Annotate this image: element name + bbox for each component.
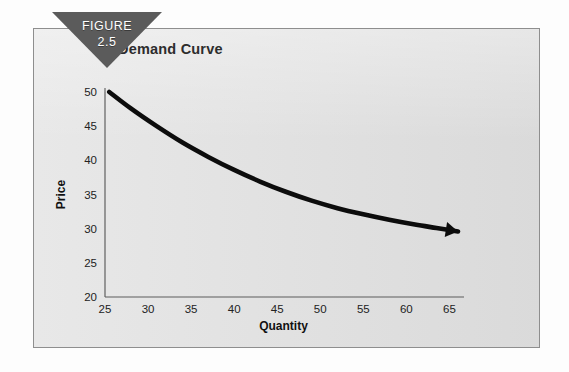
y-tick-label: 45 (84, 120, 97, 132)
figure-banner: FIGURE 2.5 (52, 12, 162, 68)
x-tick-label: 50 (314, 303, 327, 315)
y-tick-label: 20 (84, 291, 97, 303)
y-tick-label: 50 (84, 86, 97, 98)
plot-area: 20253035404550253035404550556065 Quantit… (33, 28, 540, 348)
x-tick-label: 45 (271, 303, 284, 315)
y-tick-label: 35 (84, 189, 97, 201)
banner-triangle-icon (52, 12, 162, 68)
demand-curve-plot: 20253035404550253035404550556065 Quantit… (33, 28, 540, 348)
y-tick-label: 25 (84, 257, 97, 269)
x-tick-label: 35 (185, 303, 198, 315)
x-tick-label: 60 (400, 303, 413, 315)
x-tick-label: 40 (228, 303, 241, 315)
y-tick-label: 40 (84, 154, 97, 166)
x-tick-label: 30 (142, 303, 155, 315)
x-tick-label: 55 (357, 303, 370, 315)
demand-curve-series (109, 92, 458, 237)
y-axis-title: Price (54, 179, 68, 209)
x-tick-label: 65 (443, 303, 456, 315)
figure-root: 20253035404550253035404550556065 Quantit… (0, 0, 569, 372)
demand-curve-line (109, 92, 458, 231)
x-tick-label: 25 (99, 303, 112, 315)
y-tick-label: 30 (84, 223, 97, 235)
x-axis-title: Quantity (259, 319, 308, 333)
tick-labels: 20253035404550253035404550556065 (84, 86, 456, 315)
